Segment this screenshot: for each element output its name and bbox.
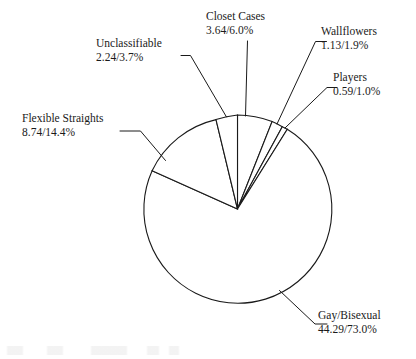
pie-label-closet-cases-value: 3.64/6.0% bbox=[206, 24, 265, 38]
cropped-caption-artifact bbox=[6, 346, 196, 355]
leader-line-flexible-straights bbox=[120, 131, 166, 161]
pie-label-flexible-straights-value: 8.74/14.4% bbox=[22, 126, 103, 140]
pie-label-closet-cases-name: Closet Cases bbox=[206, 10, 265, 24]
pie-chart-figure: Closet Cases 3.64/6.0% Wallflowers 1.13/… bbox=[0, 0, 416, 359]
pie-label-players-name: Players bbox=[333, 71, 380, 85]
pie-label-unclassifiable-name: Unclassifiable bbox=[96, 37, 162, 51]
pie-label-gay-bisexual-name: Gay/Bisexual bbox=[318, 309, 381, 323]
pie-label-gay-bisexual: Gay/Bisexual 44.29/73.0% bbox=[318, 309, 381, 336]
pie-label-unclassifiable-value: 2.24/3.7% bbox=[96, 51, 162, 65]
pie-label-wallflowers: Wallflowers 1.13/1.9% bbox=[321, 25, 377, 52]
pie-label-players-value: 0.59/1.0% bbox=[333, 85, 380, 99]
pie-label-wallflowers-name: Wallflowers bbox=[321, 25, 377, 39]
pie-chart-graphic bbox=[0, 0, 416, 359]
leader-line-unclassifiable bbox=[181, 56, 227, 118]
pie-label-gay-bisexual-value: 44.29/73.0% bbox=[318, 323, 381, 337]
pie-label-flexible-straights-name: Flexible Straights bbox=[22, 112, 103, 126]
pie-label-players: Players 0.59/1.0% bbox=[333, 71, 380, 98]
pie-label-unclassifiable: Unclassifiable 2.24/3.7% bbox=[96, 37, 162, 64]
pie-slices bbox=[144, 115, 332, 303]
pie-label-wallflowers-value: 1.13/1.9% bbox=[321, 39, 377, 53]
pie-label-closet-cases: Closet Cases 3.64/6.0% bbox=[206, 10, 265, 37]
pie-label-flexible-straights: Flexible Straights 8.74/14.4% bbox=[22, 112, 103, 139]
leader-line-closet-cases bbox=[246, 41, 248, 116]
leader-line-players bbox=[285, 88, 337, 129]
